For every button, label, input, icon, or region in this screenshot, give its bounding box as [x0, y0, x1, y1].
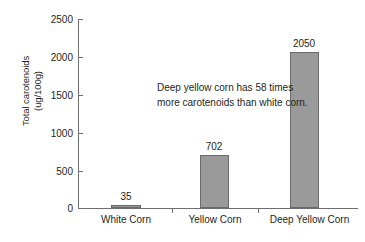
x-tick-mark-1	[172, 209, 173, 213]
x-axis-line	[78, 208, 358, 209]
chart-annotation-text: Deep yellow corn has 58 times more carot…	[157, 81, 309, 110]
bar-yellow-corn	[200, 155, 229, 208]
y-tick-label-0: 0	[31, 204, 73, 214]
y-tick-label-1000: 1000	[31, 129, 73, 139]
y-tick-mark-2000	[79, 57, 83, 58]
x-category-label-white-corn: White Corn	[96, 214, 156, 226]
x-category-label-deep-yellow-corn: Deep Yellow Corn	[262, 214, 357, 226]
y-tick-label-1500: 1500	[31, 91, 73, 101]
bar-value-deep-yellow-corn: 2050	[274, 39, 334, 49]
bar-value-white-corn: 35	[96, 192, 156, 202]
bar-deep-yellow-corn	[290, 52, 319, 208]
y-tick-mark-1000	[79, 133, 83, 134]
y-tick-label-2000: 2000	[31, 53, 73, 63]
y-tick-label-500: 500	[31, 167, 73, 177]
y-tick-mark-2500	[79, 19, 83, 20]
bar-chart-figure: Total carotenoids (ug/100g) 2500 2000 15…	[0, 0, 365, 242]
y-tick-mark-1500	[79, 95, 83, 96]
x-category-label-yellow-corn: Yellow Corn	[184, 214, 246, 226]
y-tick-label-2500: 2500	[31, 15, 73, 25]
bar-white-corn	[111, 205, 141, 208]
x-tick-mark-2	[258, 209, 259, 213]
bar-value-yellow-corn: 702	[184, 142, 244, 152]
y-axis-line	[78, 19, 79, 209]
y-tick-mark-500	[79, 171, 83, 172]
